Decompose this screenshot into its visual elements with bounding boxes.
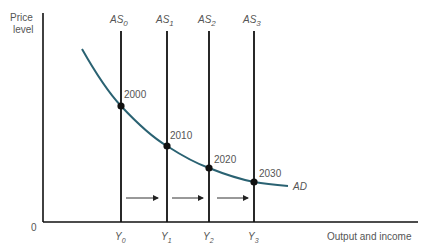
chart: Price level 0 Output and income AS0 AS1 … xyxy=(0,0,439,248)
point-2030 xyxy=(250,178,257,185)
y1-label: Y1 xyxy=(161,231,172,244)
ad-label: AD xyxy=(292,181,307,192)
x-axis-label: Output and income xyxy=(327,231,412,242)
y3-label: Y3 xyxy=(248,231,259,244)
year-label-2010: 2010 xyxy=(170,130,193,141)
y-axis-label-line2: level xyxy=(13,24,34,35)
year-label-2030: 2030 xyxy=(259,168,282,179)
svg-text:Y0: Y0 xyxy=(115,231,126,244)
point-2000 xyxy=(117,102,124,109)
year-label-2020: 2020 xyxy=(214,154,237,165)
as3-label: AS3 xyxy=(242,14,261,28)
year-label-2000: 2000 xyxy=(124,89,147,100)
as0-label: AS0 xyxy=(109,14,128,28)
as2-label: AS2 xyxy=(197,14,216,28)
svg-text:Y2: Y2 xyxy=(203,231,214,244)
svg-text:AS2: AS2 xyxy=(197,14,216,28)
ad-curve xyxy=(82,49,288,186)
svg-text:Y3: Y3 xyxy=(248,231,259,244)
svg-text:Y1: Y1 xyxy=(161,231,172,244)
y-axis-label-line1: Price xyxy=(10,12,33,23)
point-2010 xyxy=(163,142,170,149)
svg-text:AS1: AS1 xyxy=(155,14,174,28)
y2-label: Y2 xyxy=(203,231,214,244)
as1-label: AS1 xyxy=(155,14,174,28)
svg-text:AS3: AS3 xyxy=(242,14,261,28)
origin-label: 0 xyxy=(31,222,37,233)
y0-label: Y0 xyxy=(115,231,126,244)
point-2020 xyxy=(205,164,212,171)
svg-text:AS0: AS0 xyxy=(109,14,128,28)
